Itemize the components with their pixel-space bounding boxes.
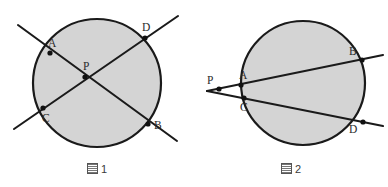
tofu-box-glyph — [281, 163, 292, 174]
figure-1-point-label-C: C — [42, 113, 50, 125]
figure-2-point-label-C: C — [240, 102, 248, 114]
figure-1-point-A — [47, 50, 52, 55]
figure-1-point-P — [82, 74, 87, 79]
figure-2-caption: 2 — [194, 163, 388, 175]
figure-1-point-label-P: P — [83, 61, 90, 73]
figure-1-point-B — [145, 121, 150, 126]
figure-2-point-label-A: A — [239, 70, 248, 82]
figure-1-point-C — [40, 105, 45, 110]
figure-1-panel: A B C D P 1 — [0, 0, 194, 187]
figure-2-caption-number: 2 — [295, 163, 301, 175]
figure-2-drawing — [194, 0, 388, 160]
figure-1-point-label-A: A — [48, 38, 57, 50]
figure-1-point-label-D: D — [142, 22, 151, 34]
figure-2-point-P — [216, 86, 221, 91]
figure-2-point-label-D: D — [349, 124, 358, 136]
figure-2-point-D — [360, 119, 365, 124]
figure-2-point-A — [238, 82, 243, 87]
tofu-box-glyph — [87, 163, 98, 174]
figure-2-point-label-P: P — [207, 75, 214, 87]
figure-1-caption: 1 — [0, 163, 194, 175]
figure-1-point-D — [142, 35, 147, 40]
figure-1-point-label-B: B — [154, 120, 162, 132]
figure-1-drawing — [0, 0, 194, 160]
figure-board: A B C D P 1 P A B C D 2 — [0, 0, 388, 187]
figure-2-point-B — [359, 57, 364, 62]
figure-2-point-label-B: B — [349, 46, 357, 58]
figure-2-circle — [241, 21, 365, 145]
figure-1-caption-number: 1 — [101, 163, 107, 175]
figure-2-point-C — [241, 95, 246, 100]
figure-2-panel: P A B C D 2 — [194, 0, 388, 187]
